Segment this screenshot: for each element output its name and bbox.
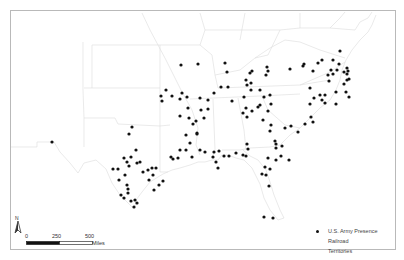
army-presence-point: [230, 99, 233, 102]
legend-label: Territories: [328, 246, 352, 256]
scale-bar: [26, 241, 96, 246]
army-presence-point: [126, 191, 129, 194]
army-presence-point: [216, 166, 219, 169]
army-presence-point: [274, 146, 277, 149]
army-presence-point: [157, 183, 160, 186]
army-presence-point: [269, 123, 272, 126]
army-presence-point: [242, 95, 245, 98]
army-presence-point: [119, 193, 122, 196]
army-presence-point: [176, 156, 179, 159]
army-presence-point: [261, 118, 264, 121]
army-presence-point: [198, 148, 201, 151]
army-presence-point: [125, 183, 128, 186]
army-presence-point: [187, 116, 190, 119]
army-presence-point: [222, 154, 225, 157]
army-presence-point: [327, 79, 330, 82]
army-presence-point: [146, 168, 149, 171]
army-presence-point: [147, 178, 150, 181]
army-presence-point: [194, 119, 197, 122]
army-presence-point: [266, 69, 269, 72]
army-presence-point: [152, 188, 155, 191]
map-canvas: [0, 0, 404, 260]
army-presence-point: [117, 178, 120, 181]
army-presence-point: [150, 166, 153, 169]
army-presence-point: [223, 61, 226, 64]
army-presence-point: [246, 147, 249, 150]
army-presence-point: [245, 142, 248, 145]
scale-tick-500: 500: [85, 233, 94, 239]
army-presence-point: [345, 78, 348, 81]
army-presence-point: [116, 167, 119, 170]
army-presence-point: [198, 96, 201, 99]
army-presence-point: [234, 151, 237, 154]
army-presence-point: [127, 164, 130, 167]
legend-item-army-presence: U.S. Army Presence: [312, 226, 378, 236]
army-presence-point: [347, 95, 350, 98]
legend-item-territories: Territories: [312, 246, 378, 256]
army-presence-point: [188, 141, 191, 144]
army-presence-point: [159, 94, 162, 97]
army-presence-point: [127, 132, 130, 135]
army-presence-point: [320, 98, 323, 101]
army-presence-point: [326, 73, 329, 76]
army-presence-point: [345, 72, 348, 75]
army-presence-point: [346, 69, 349, 72]
scale-unit: Miles: [92, 240, 105, 246]
army-presence-point: [311, 69, 314, 72]
army-presence-point: [179, 63, 182, 66]
army-presence-point: [178, 114, 181, 117]
army-presence-point: [190, 155, 193, 158]
army-presence-point: [219, 85, 222, 88]
army-presence-point: [289, 124, 292, 127]
north-arrow-icon: [14, 221, 22, 235]
army-presence-point: [180, 91, 183, 94]
army-presence-point: [337, 62, 340, 65]
army-presence-point: [331, 58, 334, 61]
army-presence-point: [217, 149, 220, 152]
army-presence-point: [318, 93, 321, 96]
army-presence-point: [309, 115, 312, 118]
army-presence-point: [249, 88, 252, 91]
army-presence-point: [111, 167, 114, 170]
army-presence-point: [329, 68, 332, 71]
army-presence-point: [178, 148, 181, 151]
army-presence-point: [133, 198, 136, 201]
army-presence-points: [50, 49, 350, 219]
army-presence-point: [334, 90, 337, 93]
legend-label: U.S. Army Presence: [328, 226, 378, 236]
army-presence-point: [185, 95, 188, 98]
army-presence-point: [249, 81, 252, 84]
army-presence-point: [125, 160, 128, 163]
army-presence-point: [244, 154, 247, 157]
army-presence-point: [342, 70, 345, 73]
army-presence-point: [154, 166, 157, 169]
army-presence-point: [312, 96, 315, 99]
army-presence-point: [206, 98, 209, 101]
army-presence-point: [196, 62, 199, 65]
state-boundaries: [11, 12, 376, 220]
army-presence-point: [331, 72, 334, 75]
legend-label: Railroad: [328, 236, 348, 246]
legend: U.S. Army Presence Railroad Territories: [312, 226, 378, 256]
army-presence-point: [287, 158, 290, 161]
army-presence-point: [135, 161, 138, 164]
army-presence-point: [262, 95, 265, 98]
army-presence-point: [122, 156, 125, 159]
army-presence-point: [266, 109, 269, 112]
army-presence-point: [266, 156, 269, 159]
army-presence-point: [274, 158, 277, 161]
army-presence-point: [170, 94, 173, 97]
army-presence-point: [344, 90, 347, 93]
army-presence-point: [334, 102, 337, 105]
army-presence-point: [160, 99, 163, 102]
army-presence-point: [227, 154, 230, 157]
army-presence-point: [199, 108, 202, 111]
army-presence-point: [303, 122, 306, 125]
army-presence-point: [263, 165, 266, 168]
army-presence-point: [241, 153, 244, 156]
army-presence-point: [191, 122, 194, 125]
army-presence-point: [335, 68, 338, 71]
army-presence-point: [264, 73, 267, 76]
army-presence-point: [130, 125, 133, 128]
army-presence-point: [186, 106, 189, 109]
